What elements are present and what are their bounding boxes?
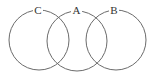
set-a-label: A bbox=[73, 4, 81, 16]
set-c-circle bbox=[9, 10, 69, 70]
set-b-label: B bbox=[110, 4, 117, 16]
set-a-circle bbox=[47, 11, 107, 71]
venn-diagram: C A B bbox=[0, 0, 155, 76]
set-c-label: C bbox=[34, 4, 41, 16]
set-b-circle bbox=[86, 10, 146, 70]
